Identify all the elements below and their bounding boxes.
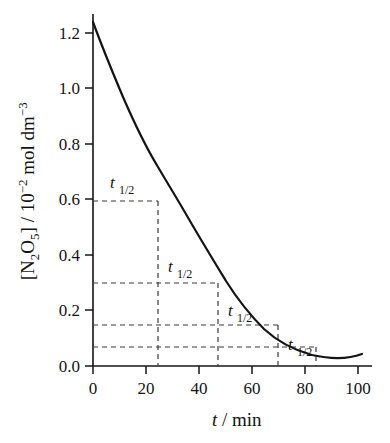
y-title-units: mol dm — [17, 116, 38, 180]
y-title-sup-minus2: −2 — [15, 179, 30, 193]
concentration-vs-time-chart: 1.2 1.0 0.8 0.6 0.4 0.2 0.0 0 20 40 60 8… — [0, 0, 390, 443]
half-life-subscript-4: 1/2 — [297, 345, 312, 359]
x-tick-label-1: 20 — [138, 379, 155, 398]
y-tick-label-4: 0.8 — [59, 135, 80, 154]
y-title-species-open: [N — [17, 260, 38, 280]
half-life-subscript-1: 1/2 — [119, 183, 134, 197]
x-title-divider: / — [217, 409, 232, 430]
half-life-subscript-3: 1/2 — [237, 311, 252, 325]
x-tick-label-2: 40 — [191, 379, 208, 398]
x-tick-label-0: 0 — [89, 379, 98, 398]
x-tick-label-4: 80 — [297, 379, 314, 398]
y-tick-label-6: 1.2 — [59, 24, 80, 43]
y-tick-label-5: 1.0 — [59, 79, 80, 98]
x-title-unit: min — [232, 409, 262, 430]
half-life-subscript-2: 1/2 — [177, 267, 192, 281]
x-tick-label-5: 100 — [345, 379, 371, 398]
y-tick-label-0: 0.0 — [59, 357, 80, 376]
x-tick-label-3: 60 — [244, 379, 261, 398]
y-tick-label-1: 0.2 — [59, 301, 80, 320]
y-title-species-o: O — [17, 240, 38, 254]
y-tick-label-2: 0.4 — [59, 246, 81, 265]
x-axis-title: t / min — [188, 409, 276, 430]
chart-background — [0, 0, 390, 443]
y-tick-label-3: 0.6 — [59, 190, 80, 209]
y-title-species-close: ] / 10 — [17, 193, 38, 233]
y-title-sup-minus3: −3 — [15, 102, 30, 116]
